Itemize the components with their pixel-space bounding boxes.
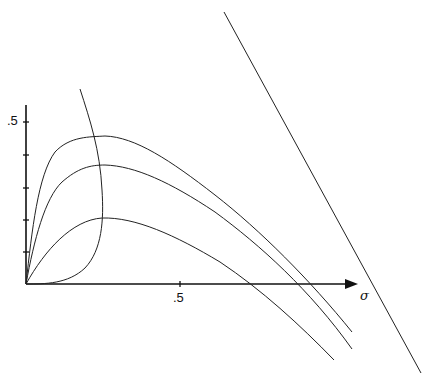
diagram-canvas bbox=[0, 0, 427, 383]
x-axis-arrow-icon bbox=[345, 279, 358, 289]
y-tick-label: .5 bbox=[7, 113, 18, 128]
straight-line bbox=[224, 12, 421, 373]
x-axis-label: σ bbox=[360, 288, 369, 303]
curve-3 bbox=[26, 218, 334, 360]
curve-2 bbox=[26, 165, 352, 349]
x-tick-label: .5 bbox=[173, 290, 184, 305]
boundary-curve bbox=[26, 89, 103, 284]
curve-1 bbox=[26, 136, 352, 332]
